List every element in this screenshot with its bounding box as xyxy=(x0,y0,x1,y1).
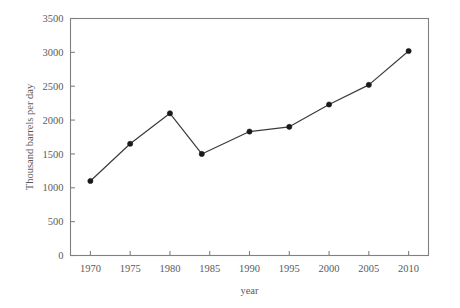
x-tick-label: 1980 xyxy=(159,263,180,274)
x-tick-label: 1990 xyxy=(239,263,260,274)
data-point xyxy=(167,111,172,116)
y-tick-label: 0 xyxy=(58,250,63,261)
x-axis-title: year xyxy=(240,285,259,296)
data-point xyxy=(287,124,292,129)
x-tick-label: 1970 xyxy=(80,263,101,274)
data-point xyxy=(128,141,133,146)
data-point xyxy=(199,151,204,156)
x-tick-label: 1995 xyxy=(279,263,300,274)
y-tick-label: 1000 xyxy=(43,182,64,193)
data-point xyxy=(247,129,252,134)
data-point xyxy=(406,48,411,53)
chart-background xyxy=(0,0,460,308)
y-axis-title: Thousand barrels per day xyxy=(24,83,35,190)
line-chart: 0500100015002000250030003500 19701975198… xyxy=(0,0,460,308)
x-tick-label: 2010 xyxy=(398,263,419,274)
data-point xyxy=(366,82,371,87)
data-point xyxy=(326,102,331,107)
x-tick-label: 2000 xyxy=(319,263,340,274)
y-tick-label: 3000 xyxy=(43,47,64,58)
y-tick-label: 500 xyxy=(48,216,64,227)
x-axis-tick-labels: 197019751980198519901995200020052010 xyxy=(80,263,419,274)
x-tick-label: 2005 xyxy=(358,263,379,274)
y-tick-label: 3500 xyxy=(43,13,64,24)
y-tick-label: 1500 xyxy=(43,149,64,160)
x-tick-label: 1985 xyxy=(199,263,220,274)
y-tick-label: 2500 xyxy=(43,81,64,92)
y-tick-label: 2000 xyxy=(43,115,64,126)
chart-canvas: 0500100015002000250030003500 19701975198… xyxy=(0,0,460,308)
x-tick-label: 1975 xyxy=(120,263,141,274)
data-point xyxy=(88,178,93,183)
